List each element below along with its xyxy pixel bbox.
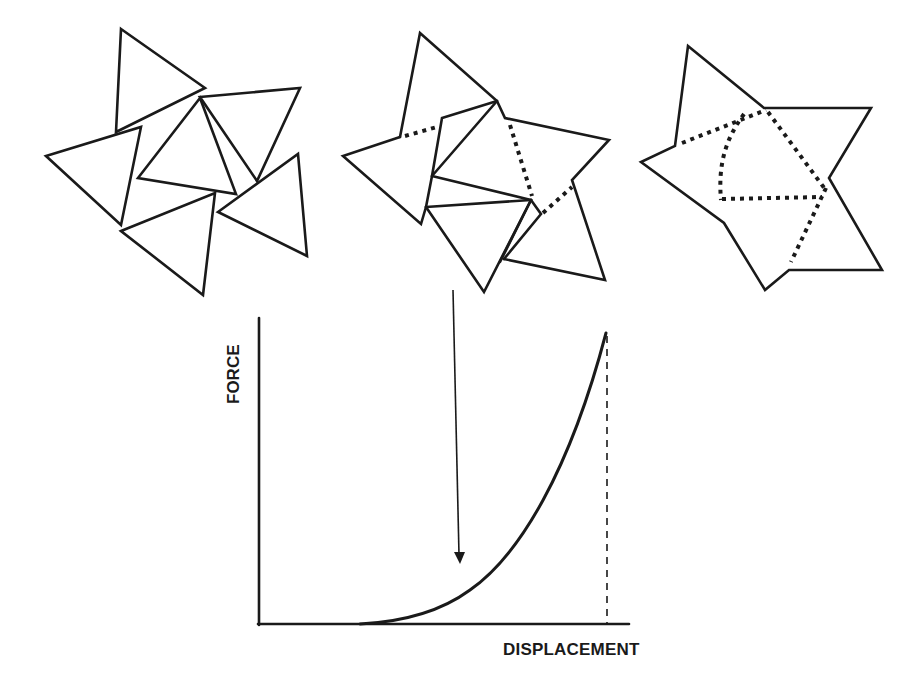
chart	[258, 318, 629, 625]
panel-partially-joined	[343, 33, 609, 292]
contact-dotted-line	[510, 125, 532, 196]
boundary-dotted-line	[722, 197, 822, 199]
triangle	[116, 29, 205, 132]
force-curve	[360, 333, 606, 624]
pointer-arrow	[453, 290, 465, 564]
contact-dotted-line	[543, 187, 572, 213]
contact-dotted-line	[405, 127, 437, 136]
triangle	[46, 127, 141, 225]
boundary-dotted-line	[720, 114, 744, 200]
triangle	[121, 193, 215, 295]
triangle	[138, 98, 236, 194]
panel-separate-triangles	[46, 29, 307, 295]
inner-edge	[426, 101, 497, 207]
boundary-dotted-line	[768, 112, 825, 189]
boundary-dotted-line	[682, 110, 766, 143]
inner-edge	[426, 200, 531, 207]
panel-fused-star	[641, 46, 882, 290]
outline	[343, 137, 426, 224]
star-outline	[641, 46, 882, 290]
y-axis-label: FORCE	[224, 348, 244, 404]
inner-edge	[432, 176, 531, 200]
outline	[400, 33, 609, 280]
inner-edge	[504, 200, 541, 259]
arrowhead-icon	[454, 552, 465, 564]
x-axis-label: DISPLACEMENT	[503, 640, 640, 660]
figure-canvas	[0, 0, 923, 681]
arrow-shaft	[453, 290, 459, 555]
